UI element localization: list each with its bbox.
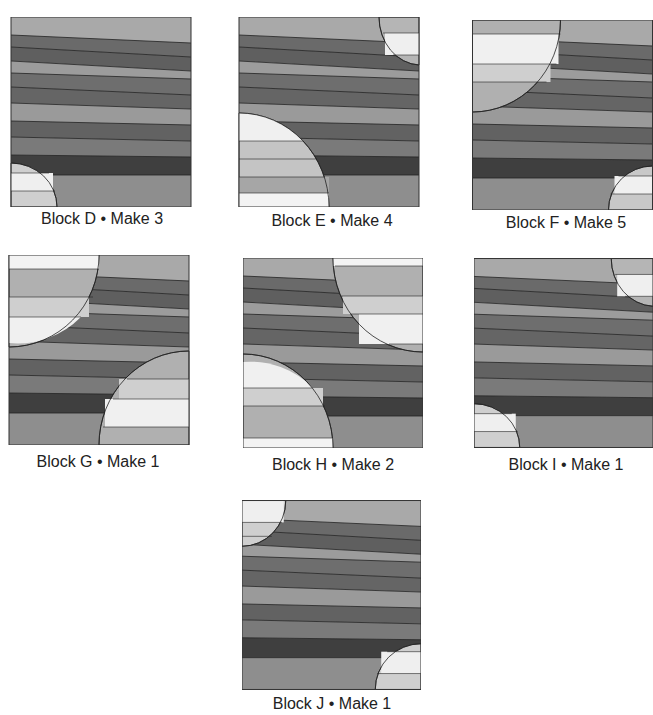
block-i-diagram — [474, 258, 653, 448]
caption-block-g: Block G • Make 1 — [8, 453, 188, 471]
caption-block-e: Block E • Make 4 — [242, 212, 422, 230]
block-i — [474, 258, 653, 448]
block-j — [242, 500, 421, 690]
block-e-diagram — [238, 17, 420, 207]
block-e — [238, 17, 420, 207]
block-f-diagram — [472, 20, 653, 210]
caption-block-f: Block F • Make 5 — [476, 214, 653, 232]
block-j-diagram — [242, 500, 421, 690]
caption-block-i: Block I • Make 1 — [476, 456, 653, 474]
caption-block-h: Block H • Make 2 — [243, 456, 423, 474]
block-g-diagram — [8, 255, 190, 445]
block-d — [10, 17, 192, 207]
block-h — [243, 258, 423, 448]
block-f — [472, 20, 653, 210]
block-d-diagram — [10, 17, 192, 207]
block-h-diagram — [243, 258, 423, 448]
block-g — [8, 255, 190, 445]
caption-block-j: Block J • Make 1 — [242, 695, 422, 713]
caption-block-d: Block D • Make 3 — [12, 210, 192, 228]
